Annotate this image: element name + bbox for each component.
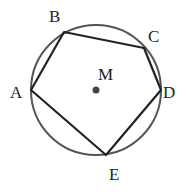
- geometry-diagram: M ABCDE: [0, 0, 189, 192]
- vertex-label-d: D: [163, 83, 175, 102]
- vertex-label-e: E: [109, 165, 119, 184]
- vertex-label-a: A: [10, 83, 23, 102]
- center-point-m: [93, 87, 100, 94]
- vertex-label-c: C: [148, 27, 159, 46]
- vertex-label-b: B: [49, 7, 60, 26]
- vertex-labels: ABCDE: [10, 7, 175, 184]
- center-label: M: [98, 65, 113, 84]
